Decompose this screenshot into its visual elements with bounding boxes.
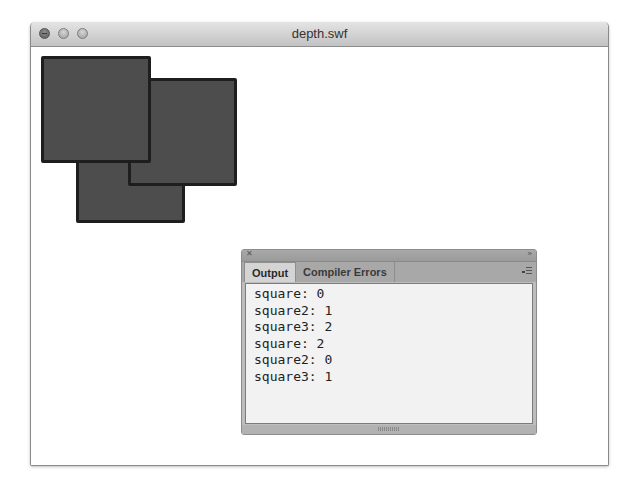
panel-collapse-icon[interactable]: » bbox=[528, 249, 532, 258]
output-line: square2: 0 bbox=[254, 352, 524, 369]
swf-player-window: depth.swf ✕ » Output Compiler Errors squ… bbox=[30, 22, 609, 466]
output-line: square: 2 bbox=[254, 336, 524, 353]
panel-tabs: Output Compiler Errors bbox=[242, 262, 536, 282]
output-line: square: 0 bbox=[254, 286, 524, 303]
tab-output[interactable]: Output bbox=[244, 262, 296, 282]
panel-close-icon[interactable]: ✕ bbox=[246, 249, 253, 258]
output-line: square3: 2 bbox=[254, 319, 524, 336]
panel-drag-handle[interactable]: ✕ » bbox=[242, 250, 536, 262]
window-title: depth.swf bbox=[31, 26, 608, 41]
tab-compiler-errors[interactable]: Compiler Errors bbox=[296, 262, 395, 282]
output-line: square2: 1 bbox=[254, 303, 524, 320]
output-text-area[interactable]: square: 0 square2: 1 square3: 2 square: … bbox=[245, 283, 533, 424]
panel-status-bar bbox=[242, 425, 536, 434]
output-line: square3: 1 bbox=[254, 369, 524, 386]
square-shape bbox=[41, 56, 151, 163]
panel-menu-icon[interactable] bbox=[522, 267, 532, 277]
flash-stage: ✕ » Output Compiler Errors square: 0 squ… bbox=[31, 47, 608, 465]
resize-grip-icon[interactable] bbox=[378, 427, 400, 431]
output-panel: ✕ » Output Compiler Errors square: 0 squ… bbox=[241, 249, 537, 435]
title-bar[interactable]: depth.swf bbox=[31, 22, 608, 47]
